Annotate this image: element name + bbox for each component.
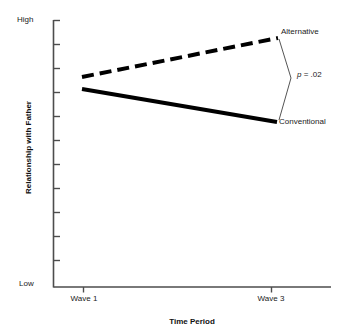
chart-figure: High Low Wave 1 Wave 3 Time Period Relat… bbox=[0, 0, 343, 336]
series-line-alternative bbox=[82, 38, 278, 77]
significance-annotation: p = .02 bbox=[297, 70, 322, 79]
x-axis-ticks bbox=[84, 287, 272, 293]
p-value-text: = .02 bbox=[301, 70, 321, 79]
y-axis-title: Relationship with Father bbox=[24, 68, 33, 228]
series-line-conventional bbox=[82, 89, 277, 122]
y-axis-high-label: High bbox=[17, 15, 33, 24]
x-axis-title: Time Period bbox=[53, 317, 331, 326]
series-label-conventional: Conventional bbox=[279, 117, 326, 126]
x-axis-tick-label-wave-3: Wave 3 bbox=[250, 294, 292, 303]
x-axis-tick-label-wave-1: Wave 1 bbox=[63, 294, 105, 303]
significance-bracket-icon bbox=[279, 39, 291, 120]
y-axis-ticks bbox=[54, 21, 61, 261]
series-label-alternative: Alternative bbox=[281, 27, 319, 36]
line-chart-canvas bbox=[0, 0, 343, 336]
y-axis-low-label: Low bbox=[19, 279, 34, 288]
